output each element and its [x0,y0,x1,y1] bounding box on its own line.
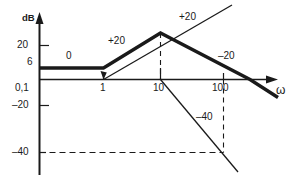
y-tick-label-minus-40: –40 [12,147,29,157]
y-tick-label-minus-20: –20 [12,100,29,110]
y-tick-label-0-1: 0,1 [15,83,29,93]
x-tick-label-1: 1 [100,83,106,93]
plot-canvas [0,0,295,180]
y-axis-ticks [40,46,50,153]
slope-label-zero: 0 [66,51,72,61]
falling-term-asymptote-line [161,80,239,173]
slope-label-rising-thin: +20 [179,12,196,22]
bode-plot-figure: dB 20 6 0,1 –20 –40 1 10 100 ω 0 +20 +20… [0,0,295,180]
y-axis-unit-label: dB [22,13,35,23]
x-tick-label-10: 10 [153,83,164,93]
y-tick-label-20: 20 [17,40,28,50]
y-tick-label-6: 6 [27,57,33,67]
y-axis [36,12,44,175]
x-tick-label-100: 100 [212,83,229,93]
slope-label-falling-thin: –40 [196,112,213,122]
slope-label-rising-thick: +20 [108,36,125,46]
x-axis-symbol-label: ω [276,84,285,96]
slope-label-falling-thick: –20 [218,51,235,61]
